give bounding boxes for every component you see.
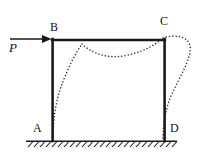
frame-members-group [52,39,165,141]
node-label-b: B [50,21,58,33]
ground-support-group [26,141,177,147]
node-label-a: A [33,122,42,134]
node-label-d: D [170,122,179,134]
deflected-left-column [53,44,82,140]
frame-deflection-figure: A B C D P [0,0,199,158]
load-label-p: P [9,41,17,54]
node-label-c: C [160,15,168,27]
load-arrow-head [42,35,52,43]
ground-hatching [28,142,177,148]
